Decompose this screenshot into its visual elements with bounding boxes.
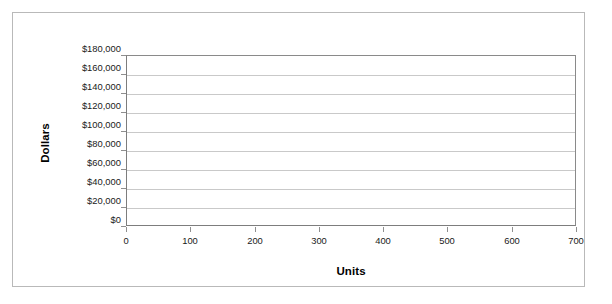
y-axis-tick-label: $100,000 xyxy=(57,120,121,130)
y-axis-tick-mark xyxy=(121,112,126,113)
gridline-horizontal xyxy=(127,132,575,133)
chart-frame: Dollars $0$20,000$40,000$60,000$80,000$1… xyxy=(12,12,585,287)
y-axis-tick-mark xyxy=(121,93,126,94)
y-axis-tick-mark xyxy=(121,55,126,56)
y-axis-tick-label: $80,000 xyxy=(57,139,121,149)
y-axis-tick-label: $120,000 xyxy=(57,101,121,111)
y-axis-tick-label: $40,000 xyxy=(57,177,121,187)
x-axis-tick-mark xyxy=(255,227,256,232)
y-axis-tick-mark xyxy=(121,150,126,151)
x-axis-tick-label: 400 xyxy=(353,235,413,246)
y-axis-tick-label: $0 xyxy=(57,215,121,225)
y-axis-tick-mark xyxy=(121,207,126,208)
x-axis-tick-label: 300 xyxy=(289,235,349,246)
y-axis-tick-label: $60,000 xyxy=(57,158,121,168)
y-axis-title-label: Dollars xyxy=(39,123,51,163)
x-axis-tick-label: 700 xyxy=(546,235,606,246)
gridline-horizontal xyxy=(127,170,575,171)
x-axis-tick-mark xyxy=(126,227,127,232)
x-axis-tick-label: 600 xyxy=(482,235,542,246)
gridline-horizontal xyxy=(127,75,575,76)
y-axis-tick-mark xyxy=(121,131,126,132)
y-axis-tick-mark xyxy=(121,188,126,189)
x-axis-tick-label: 500 xyxy=(417,235,477,246)
x-axis-tick-mark xyxy=(319,227,320,232)
y-axis-tick-label: $20,000 xyxy=(57,196,121,206)
x-axis-tick-mark xyxy=(576,227,577,232)
gridline-horizontal xyxy=(127,94,575,95)
y-axis-tick-mark xyxy=(121,169,126,170)
y-axis-title: Dollars xyxy=(31,100,59,186)
x-axis-tick-label: 200 xyxy=(225,235,285,246)
y-axis-tick-label: $180,000 xyxy=(57,44,121,54)
y-axis-tick-label: $140,000 xyxy=(57,82,121,92)
y-axis-tick-labels: $0$20,000$40,000$60,000$80,000$100,000$1… xyxy=(57,49,121,227)
y-axis-tick-mark xyxy=(121,74,126,75)
y-axis-tick-label: $160,000 xyxy=(57,63,121,73)
x-axis-tick-label: 0 xyxy=(96,235,156,246)
plot-area xyxy=(126,55,576,226)
x-axis-tick-mark xyxy=(190,227,191,232)
gridline-horizontal xyxy=(127,189,575,190)
gridline-horizontal xyxy=(127,151,575,152)
x-axis-tick-mark xyxy=(383,227,384,232)
x-axis-tick-label: 100 xyxy=(160,235,220,246)
gridline-horizontal xyxy=(127,113,575,114)
x-axis-tick-mark xyxy=(512,227,513,232)
x-axis-tick-mark xyxy=(447,227,448,232)
x-axis-title-label: Units xyxy=(126,265,576,277)
gridline-horizontal xyxy=(127,208,575,209)
